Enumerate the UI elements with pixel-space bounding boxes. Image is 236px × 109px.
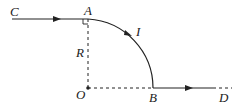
right-angle-marker (83, 19, 88, 24)
label-b: B (149, 91, 157, 104)
label-o: O (76, 88, 85, 101)
label-i: I (136, 25, 140, 38)
label-c: C (10, 5, 19, 18)
diagram-graphics (0, 0, 236, 109)
arrow-arc-icon (124, 30, 132, 36)
label-a: A (84, 4, 92, 17)
arc-ab (88, 19, 153, 88)
label-d: D (219, 91, 228, 104)
label-r: R (76, 46, 84, 59)
arrow-ca-icon (53, 16, 61, 22)
arrow-bd-icon (185, 85, 193, 91)
wire-diagram: C A I R O B D (0, 0, 236, 109)
